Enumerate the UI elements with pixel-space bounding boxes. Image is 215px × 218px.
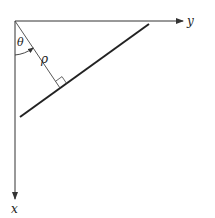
y-axis-label: y bbox=[186, 14, 194, 28]
x-axis-label: x bbox=[11, 202, 18, 216]
right-angle-marker bbox=[56, 77, 67, 84]
rho-segment bbox=[15, 21, 60, 88]
theta-label: θ bbox=[17, 36, 24, 49]
target-line bbox=[20, 24, 149, 117]
rho-label: ρ bbox=[40, 52, 48, 66]
hough-line-diagram: y x θ ρ bbox=[0, 0, 215, 218]
theta-arc bbox=[15, 48, 33, 55]
